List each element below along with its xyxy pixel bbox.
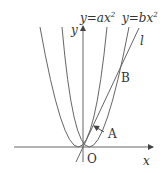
label-curve-a: y=ax2 — [79, 11, 116, 25]
label-curve-b: y=bx2 — [121, 11, 158, 25]
parabola-diagram: y=ax2 y=bx2 l y x O A B — [0, 0, 168, 173]
label-line-l: l — [140, 34, 144, 48]
pointer-a — [94, 126, 104, 132]
parabola-a — [40, 27, 107, 147]
label-y-axis: y — [70, 23, 78, 37]
parabola-b — [62, 27, 129, 147]
label-point-b: B — [121, 71, 130, 85]
label-x-axis: x — [143, 154, 150, 168]
label-origin: O — [87, 152, 97, 166]
line-l — [76, 28, 139, 162]
label-point-a: A — [107, 127, 117, 141]
